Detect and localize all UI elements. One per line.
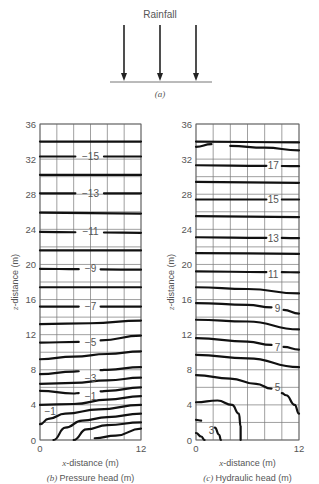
contour-line bbox=[196, 216, 299, 217]
y-tick-label: 20 bbox=[181, 259, 192, 270]
contour-label: 15 bbox=[268, 194, 280, 205]
contour-line bbox=[101, 387, 141, 391]
x-axis-ticks: 012 bbox=[37, 443, 146, 454]
y-tick-label: 32 bbox=[25, 154, 36, 165]
y-tick-label: 36 bbox=[181, 119, 192, 130]
x-axis-label: x-distance (m) bbox=[61, 458, 119, 468]
y-axis-label: z-distance (m) bbox=[10, 254, 20, 311]
contour-line bbox=[196, 253, 299, 254]
contour-line bbox=[284, 347, 299, 350]
arrow-head-icon bbox=[157, 73, 163, 81]
arrow-head-icon bbox=[121, 73, 127, 81]
y-tick-label: 28 bbox=[181, 189, 192, 200]
contour-line bbox=[196, 271, 266, 272]
x-axis-ticks: 012 bbox=[193, 443, 304, 454]
contour-line bbox=[196, 165, 266, 166]
panel-a-rainfall: Rainfall (a) bbox=[110, 9, 212, 99]
chart-caption: (c) Hydraulic head (m) bbox=[203, 473, 291, 483]
chart-caption: (b) Pressure head (m) bbox=[47, 473, 134, 483]
contour-line bbox=[196, 420, 201, 421]
rainfall-label: Rainfall bbox=[143, 9, 176, 20]
contour-line bbox=[101, 336, 141, 341]
contour-label: 5 bbox=[275, 382, 281, 393]
contour-line bbox=[196, 237, 266, 238]
y-tick-label: 8 bbox=[31, 364, 36, 375]
contour-line bbox=[40, 391, 79, 394]
contour-line bbox=[196, 142, 299, 143]
contour-line bbox=[196, 375, 272, 389]
y-axis-label: z-distance (m) bbox=[166, 254, 176, 311]
y-tick-label: 32 bbox=[181, 154, 192, 165]
y-tick-label: 12 bbox=[25, 329, 36, 340]
x-tick-label: 0 bbox=[193, 443, 198, 454]
y-tick-label: 4 bbox=[31, 399, 36, 410]
y-tick-label: 0 bbox=[187, 435, 192, 446]
contour-labels: −15−13−11−9−7−5−3−1−1 bbox=[44, 151, 99, 417]
y-tick-label: 24 bbox=[25, 224, 36, 235]
x-tick-label: 12 bbox=[136, 443, 147, 454]
x-tick-label: 12 bbox=[294, 443, 305, 454]
y-tick-label: 8 bbox=[187, 364, 192, 375]
contour-line bbox=[284, 310, 299, 314]
hydraulic-head-chart: 17151311975304812162024283236012x-distan… bbox=[166, 119, 304, 484]
y-tick-label: 12 bbox=[181, 329, 192, 340]
contour-label: −11 bbox=[82, 226, 99, 237]
contour-label: 11 bbox=[268, 269, 279, 280]
y-tick-label: 16 bbox=[25, 294, 36, 305]
contour-label: −9 bbox=[85, 263, 97, 274]
rainfall-arrows bbox=[121, 25, 199, 81]
contour-label: −13 bbox=[82, 188, 99, 199]
x-tick-label: 0 bbox=[37, 443, 42, 454]
y-tick-label: 36 bbox=[25, 119, 36, 130]
y-axis-ticks: 04812162024283236 bbox=[25, 119, 36, 446]
y-axis-ticks: 04812162024283236 bbox=[181, 119, 192, 446]
contour-line bbox=[196, 433, 205, 440]
x-axis-label: x-distance (m) bbox=[218, 458, 276, 468]
contour-label: −15 bbox=[82, 151, 99, 162]
contour-labels: 171513119753 bbox=[209, 160, 281, 436]
contour-label: 17 bbox=[268, 160, 280, 171]
panel-a-caption: (a) bbox=[155, 89, 166, 99]
contour-line bbox=[196, 182, 299, 183]
y-tick-label: 24 bbox=[181, 224, 192, 235]
contour-line bbox=[196, 303, 272, 307]
arrow-head-icon bbox=[193, 73, 199, 81]
contour-label: −7 bbox=[85, 301, 97, 312]
y-tick-label: 4 bbox=[187, 399, 192, 410]
contour-label: 7 bbox=[275, 342, 281, 353]
contour-label: 9 bbox=[275, 303, 281, 314]
figure-canvas: Rainfall (a) −15−13−11−9−7−5−3−1−1048121… bbox=[0, 0, 319, 484]
y-tick-label: 16 bbox=[181, 294, 192, 305]
contour-line bbox=[282, 393, 299, 413]
y-tick-label: 0 bbox=[31, 435, 36, 446]
contour-label: −3 bbox=[85, 373, 97, 384]
contour-line bbox=[196, 338, 272, 345]
y-tick-label: 20 bbox=[25, 259, 36, 270]
contour-line bbox=[40, 213, 141, 214]
contour-label: 13 bbox=[268, 233, 280, 244]
contour-label: −1 bbox=[85, 391, 97, 402]
contour-label: 3 bbox=[209, 425, 215, 436]
contour-label: −5 bbox=[85, 337, 97, 348]
pressure-head-chart: −15−13−11−9−7−5−3−1−10481216202428323601… bbox=[10, 119, 146, 484]
contour-label: −1 bbox=[44, 406, 56, 417]
y-tick-label: 28 bbox=[25, 189, 36, 200]
contour-line bbox=[40, 371, 79, 374]
contour-line bbox=[215, 428, 221, 440]
contour-line bbox=[95, 429, 141, 439]
contour-line bbox=[196, 144, 211, 147]
contour-line bbox=[40, 342, 79, 343]
